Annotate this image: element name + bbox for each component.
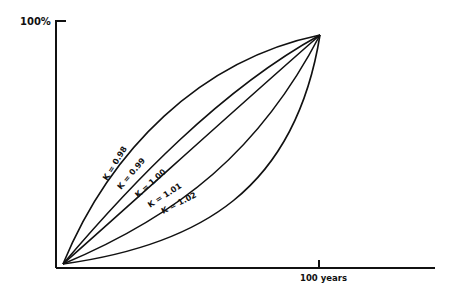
x-tick-label-100-years: 100 years [300, 273, 347, 283]
chart: 100% 100 years K = 0.98 K = 0.99 K = 1.0… [0, 0, 456, 295]
y-tick-label-100pct: 100% [20, 16, 51, 27]
curve-k-1.00 [63, 35, 320, 264]
